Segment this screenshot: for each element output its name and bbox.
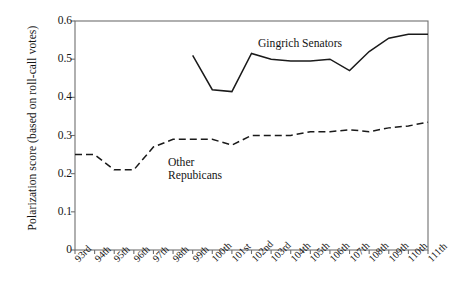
y-tick-label: 0.2 <box>38 168 72 180</box>
y-tick-label: 0.5 <box>38 53 72 65</box>
y-axis-tick-labels: 00.10.20.30.40.50.6 <box>34 0 72 297</box>
y-tick-label: 0.3 <box>38 130 72 142</box>
chart-figure: Polarization score (based on roll-call v… <box>0 0 454 297</box>
gingrich-senators-label: Gingrich Senators <box>258 37 342 50</box>
other-republicans-label-line1: Other <box>168 156 222 169</box>
y-tick-label: 0.4 <box>38 91 72 103</box>
y-tick-label: 0 <box>38 244 72 256</box>
data-series-group <box>75 34 428 169</box>
plot-frame <box>75 21 428 250</box>
other-republicans-label-line2: Repubicans <box>168 169 222 182</box>
y-tick-label: 0.6 <box>38 15 72 27</box>
y-tick-label: 0.1 <box>38 206 72 218</box>
plot-frame-rect <box>75 21 428 250</box>
other-republicans-label: Other Repubicans <box>168 156 222 182</box>
series-line-other-repubicans <box>75 122 428 170</box>
